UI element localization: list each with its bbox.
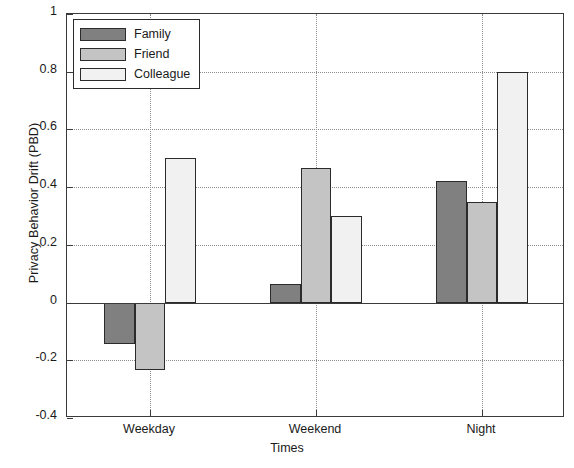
- y-tick-mark: [67, 14, 73, 15]
- y-tick-label: -0.4: [35, 408, 57, 422]
- x-tick-mark: [150, 410, 151, 416]
- x-axis-title: Times: [0, 441, 574, 455]
- x-tick-mark: [316, 410, 317, 416]
- x-tick-mark: [482, 410, 483, 416]
- y-tick-label: -0.2: [35, 350, 57, 364]
- x-tick-label: Night: [466, 422, 495, 436]
- legend-entry: Family: [80, 24, 190, 44]
- y-tick-mark: [67, 360, 73, 361]
- y-tick-label: 0.4: [40, 177, 57, 191]
- bar-colleague-weekend: [331, 216, 362, 303]
- legend-swatch-colleague: [80, 68, 126, 81]
- y-tick-label: 1: [50, 4, 57, 18]
- y-tick-mark: [67, 187, 73, 188]
- bar-family-weekend: [270, 284, 301, 303]
- y-tick-label: 0.6: [40, 119, 57, 133]
- y-tick-mark: [67, 245, 73, 246]
- y-tick-label: 0.2: [40, 235, 57, 249]
- y-tick-label: 0.8: [40, 62, 57, 76]
- bar-friend-night: [467, 202, 498, 303]
- bar-chart-figure: Privacy Behavior Drift (PBD) 10.80.60.40…: [0, 0, 574, 468]
- y-tick-mark: [67, 418, 73, 419]
- bar-colleague-weekday: [165, 158, 196, 302]
- legend-label: Friend: [134, 47, 169, 61]
- x-tick-label: Weekend: [289, 422, 342, 436]
- legend-swatch-friend: [80, 48, 126, 61]
- gridline-horizontal: [67, 129, 563, 130]
- bar-family-night: [436, 181, 467, 302]
- y-axis-title: Privacy Behavior Drift (PBD): [27, 73, 41, 333]
- bar-friend-weekend: [301, 168, 332, 302]
- y-tick-mark: [67, 129, 73, 130]
- legend-label: Family: [134, 27, 171, 41]
- legend-swatch-family: [80, 28, 126, 41]
- bar-friend-weekday: [135, 303, 166, 371]
- zero-line: [67, 303, 563, 304]
- legend-entry: Friend: [80, 44, 190, 64]
- x-tick-label: Weekday: [123, 422, 175, 436]
- y-tick-mark: [67, 303, 73, 304]
- bar-family-weekday: [104, 303, 135, 345]
- bar-colleague-night: [497, 72, 528, 303]
- legend-label: Colleague: [134, 67, 190, 81]
- chart-legend: FamilyFriendColleague: [73, 19, 200, 89]
- legend-entry: Colleague: [80, 64, 190, 84]
- y-tick-label: 0: [50, 293, 57, 307]
